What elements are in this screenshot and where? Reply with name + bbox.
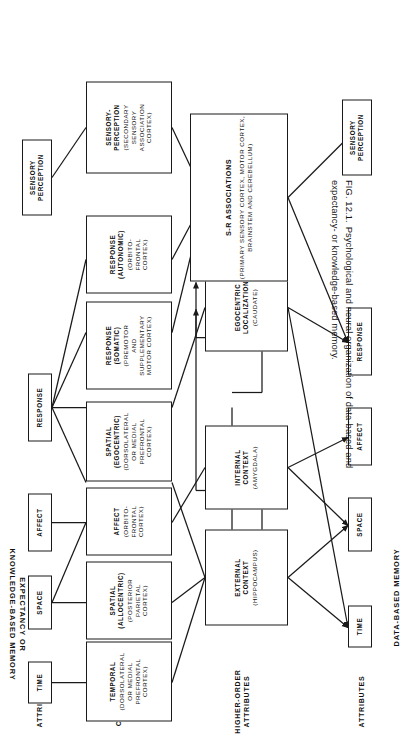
node-sr-associations-detail: (PRIMARY SENSORY CORTEX, MOTOR CORTEX, B… <box>238 115 254 278</box>
node-affect-title: AFFECT <box>113 507 121 535</box>
node-spatial-allocentric[interactable]: SPATIAL (ALLOCENTRIC) (POSTERIOR PARIETA… <box>86 561 172 639</box>
node-internal-context[interactable]: INTERNAL CONTEXT (AMYGDALA) <box>205 425 288 509</box>
node-spatial-egocentric-title: SPATIAL (EGOCENTRIC) <box>105 415 121 468</box>
node-temporal-detail: (DORSOLATERAL OR MEDIAL PREFRONTAL CORTE… <box>118 652 149 710</box>
node-temporal-title: TEMPORAL <box>109 661 117 701</box>
node-egocentric-localization-detail: (CAUDATE) <box>251 288 259 326</box>
node-sr-associations[interactable]: S-R ASSOCIATIONS (PRIMARY SENSORY CORTEX… <box>190 113 288 281</box>
attribute-chip-time-bottom[interactable]: TIME <box>348 605 372 647</box>
attribute-chip-affect-top[interactable]: AFFECT <box>28 493 52 551</box>
node-response-autonomic-title: RESPONSE (AUTONOMIC) <box>109 230 125 279</box>
node-internal-context-detail: (AMYGDALA) <box>251 445 259 488</box>
node-external-context[interactable]: EXTERNAL CONTEXT (HIPPOCAMPUS) <box>205 529 288 625</box>
node-spatial-egocentric-detail: (DORSOLATERAL OR MEDIAL PREFRONTAL CORTE… <box>122 412 153 470</box>
node-response-autonomic[interactable]: RESPONSE (AUTONOMIC) (ORBITO- FRONTAL CO… <box>86 215 172 293</box>
node-response-somatic-detail: (PREMOTOR AND SUPPLEMENTARY MOTOR CORTEX… <box>122 315 153 375</box>
node-affect-detail: (ORBITO- FRONTAL CORTEX) <box>122 505 145 537</box>
node-affect[interactable]: AFFECT (ORBITO- FRONTAL CORTEX) <box>86 487 172 555</box>
node-spatial-allocentric-detail: (POSTERIOR PARIETAL CORTEX) <box>126 578 149 621</box>
node-external-context-detail: (HIPPOCAMPUS) <box>251 549 259 605</box>
attribute-chip-sensory-perception-top[interactable]: SENSORY PERCEPTION <box>22 139 52 215</box>
node-spatial-egocentric-box[interactable]: SPATIAL (EGOCENTRIC) (DORSOLATERAL OR ME… <box>86 401 172 481</box>
node-sensory-perception-title: SENSORY- PERCEPTION <box>105 104 121 150</box>
attribute-chip-sensory-perception-bottom[interactable]: SENSORY PERCEPTION <box>342 99 372 175</box>
node-spatial-allocentric-title: SPATIAL (ALLOCENTRIC) <box>109 572 125 628</box>
figure-number: FIG. 12.1. <box>344 180 355 223</box>
attribute-chip-response-top[interactable]: RESPONSE <box>28 373 52 441</box>
row-label-higher-order-attributes: HIGHER-ORDER ATTRIBUTES <box>234 653 252 737</box>
node-internal-context-title: INTERNAL CONTEXT <box>234 449 250 485</box>
node-sensory-perception[interactable]: SENSORY- PERCEPTION (SECONDARY SENSORY A… <box>86 81 172 173</box>
node-external-context-title: EXTERNAL CONTEXT <box>234 558 250 596</box>
attribute-chip-space-top[interactable]: SPACE <box>28 575 52 629</box>
attribute-chip-time-top[interactable]: TIME <box>28 661 52 703</box>
figure-caption: FIG. 12.1.Psychological and neural organ… <box>329 180 356 510</box>
node-response-somatic[interactable]: RESPONSE (SOMATIC) (PREMOTOR AND SUPPLEM… <box>86 301 172 389</box>
node-response-somatic-title: RESPONSE (SOMATIC) <box>105 325 121 364</box>
node-egocentric-localization-title: EGOCENTRIC LOCALIZATION <box>234 281 250 334</box>
node-sr-associations-title: S-R ASSOCIATIONS <box>224 158 233 235</box>
band-label-data-based: DATA-BASED MEMORY <box>392 497 402 697</box>
node-sensory-perception-detail: (SECONDARY SENSORY ASSOCIATION CORTEX) <box>122 103 153 150</box>
figure-caption-text: Psychological and neural organization of… <box>330 180 355 468</box>
node-temporal[interactable]: TEMPORAL (DORSOLATERAL OR MEDIAL PREFRON… <box>86 641 172 721</box>
node-response-autonomic-detail: (ORBITO- FRONTAL CORTEX) <box>126 238 149 270</box>
row-label-bottom-attributes: ATTRIBUTES <box>358 653 367 737</box>
band-label-expectancy: EXPECTANCY OR KNOWLEDGE-BASED MEMORY <box>8 499 27 729</box>
